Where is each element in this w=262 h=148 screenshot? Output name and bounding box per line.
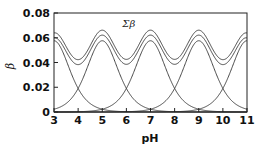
y-tick-label: 0.04 [23,57,50,70]
buffer-curve [54,41,247,112]
x-tick-label: 6 [123,114,131,127]
x-tick-label: 10 [215,114,231,127]
buffer-capacity-chart: 34567891011 00.020.040.060.08 pH β Σβ [0,0,262,148]
y-tick-label: 0.08 [23,7,50,20]
sum-beta-annotation: Σβ [121,18,135,29]
y-tick-label: 0.06 [23,32,50,45]
buffer-curve [54,41,247,112]
y-axis-ticks: 00.020.040.060.08 [23,7,58,119]
x-axis-label: pH [141,132,158,145]
x-tick-label: 5 [98,114,106,127]
buffer-curve [54,41,247,112]
x-tick-label: 11 [239,114,254,127]
plot-curves [54,30,247,112]
x-tick-label: 3 [50,114,58,127]
x-tick-label: 7 [147,114,155,127]
y-tick-label: 0 [42,106,50,119]
x-tick-label: 4 [74,114,82,127]
x-tick-label: 9 [195,114,203,127]
sum-beta-curve-inner [54,35,247,65]
y-axis-label: β [4,63,17,70]
buffer-curve [54,41,247,112]
y-tick-label: 0.02 [23,81,50,94]
sum-beta-curve [54,30,247,60]
x-tick-label: 8 [171,114,179,127]
x-axis-ticks: 34567891011 [50,108,254,127]
buffer-curve [54,41,247,112]
